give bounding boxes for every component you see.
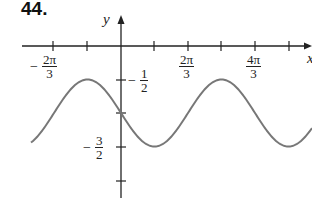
x-tick-label-4pi-3: 4π3 [246, 53, 261, 80]
x-tick-label-2pi-3: 2π3 [179, 53, 194, 80]
cosine-curve [31, 80, 312, 147]
x-axis-arrow-icon [304, 43, 312, 50]
y-axis-arrow-icon [118, 15, 125, 24]
x-tick-label-neg-2pi-3: − 2π3 [30, 53, 57, 80]
graph-canvas [0, 0, 312, 220]
y-axis-label: y [103, 11, 110, 28]
x-axis-label: x [307, 50, 312, 67]
y-tick-label-neg-1-2: − 12 [128, 67, 148, 94]
y-tick-label-neg-3-2: − 32 [83, 134, 103, 161]
